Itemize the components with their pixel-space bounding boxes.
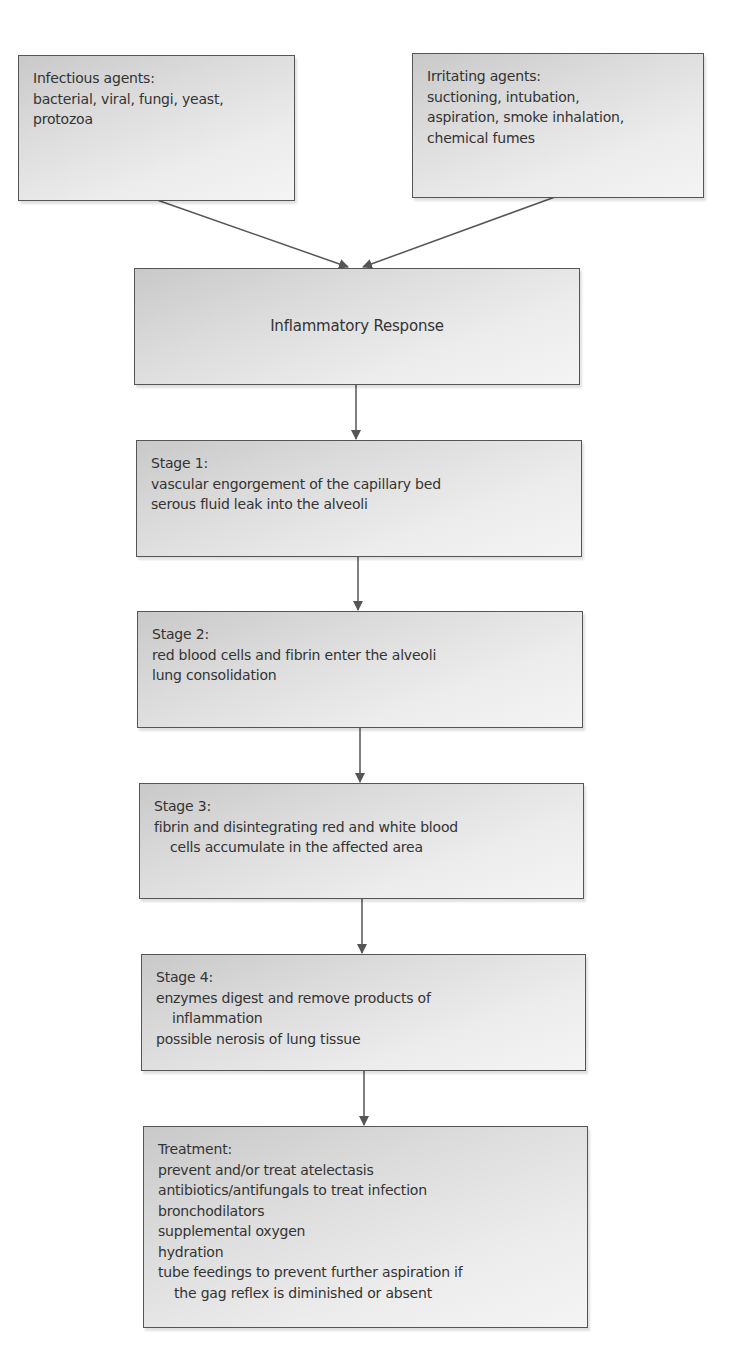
box-title: Infectious agents: <box>33 68 280 89</box>
box-line: lung consolidation <box>152 665 568 686</box>
box-line: vascular engorgement of the capillary be… <box>151 474 567 495</box>
stage-3-box: Stage 3: fibrin and disintegrating red a… <box>139 783 584 899</box>
box-line: chemical fumes <box>427 128 689 149</box>
box-line: aspiration, smoke inhalation, <box>427 107 689 128</box>
box-line: cells accumulate in the affected area <box>154 837 569 858</box>
box-line: possible nerosis of lung tissue <box>156 1029 571 1050</box>
box-line: prevent and/or treat atelectasis <box>158 1160 573 1181</box>
inflammatory-response-box: Inflammatory Response <box>134 268 580 385</box>
irritating-agents-box: Irritating agents: suctioning, intubatio… <box>412 53 704 198</box>
stage-2-box: Stage 2: red blood cells and fibrin ente… <box>137 611 583 728</box>
infectious-agents-box: Infectious agents: bacterial, viral, fun… <box>18 55 295 201</box>
box-title: Inflammatory Response <box>270 316 444 337</box>
box-line: inflammation <box>156 1008 571 1029</box>
treatment-box: Treatment: prevent and/or treat atelecta… <box>143 1126 588 1328</box>
arrow-infectious-to-inflammatory <box>157 200 348 267</box>
stage-4-box: Stage 4: enzymes digest and remove produ… <box>141 954 586 1071</box>
box-title: Stage 1: <box>151 453 567 474</box>
box-line: fibrin and disintegrating red and white … <box>154 817 569 838</box>
box-line: tube feedings to prevent further aspirat… <box>158 1262 573 1283</box>
arrow-irritating-to-inflammatory <box>363 197 555 267</box>
box-line: antibiotics/antifungals to treat infecti… <box>158 1180 573 1201</box>
box-title: Stage 4: <box>156 967 571 988</box>
box-line: supplemental oxygen <box>158 1221 573 1242</box>
box-title: Stage 2: <box>152 624 568 645</box>
box-line: red blood cells and fibrin enter the alv… <box>152 645 568 666</box>
box-line: bacterial, viral, fungi, yeast, <box>33 89 280 110</box>
box-line: the gag reflex is diminished or absent <box>158 1283 573 1304</box>
stage-1-box: Stage 1: vascular engorgement of the cap… <box>136 440 582 557</box>
box-line: enzymes digest and remove products of <box>156 988 571 1009</box>
box-line: serous fluid leak into the alveoli <box>151 494 567 515</box>
box-line: protozoa <box>33 109 280 130</box>
box-line: suctioning, intubation, <box>427 87 689 108</box>
box-line: bronchodilators <box>158 1201 573 1222</box>
box-line: hydration <box>158 1242 573 1263</box>
box-title: Treatment: <box>158 1139 573 1160</box>
box-title: Stage 3: <box>154 796 569 817</box>
box-title: Irritating agents: <box>427 66 689 87</box>
